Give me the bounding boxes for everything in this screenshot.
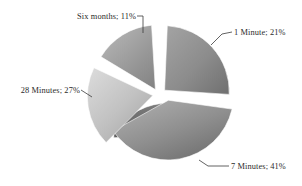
- pie-label-one-minute: 1 Minute; 21%: [234, 28, 286, 37]
- pie-label-six-months: Six months; 11%: [77, 12, 136, 21]
- pie-label-seven-minutes: 7 Minutes; 41%: [231, 162, 286, 171]
- pie-label-twentyeight-minutes: 28 Minutes; 27%: [21, 86, 80, 95]
- pie-chart-figure: Six months; 11% 1 Minute; 21% 28 Minutes…: [0, 0, 302, 186]
- pie-chart-canvas: Six months; 11% 1 Minute; 21% 28 Minutes…: [0, 0, 302, 186]
